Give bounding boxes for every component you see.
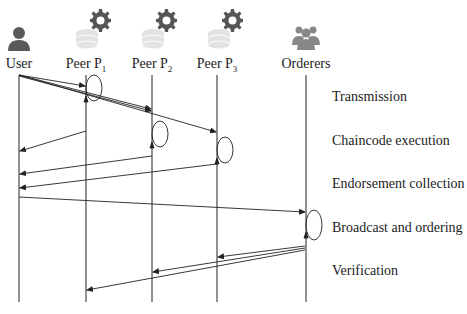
actor-label-peer-p3: Peer P3 xyxy=(197,56,238,74)
peer-p2-icon xyxy=(142,9,177,49)
peer-p3-icon xyxy=(208,9,243,49)
orderers-group-icon xyxy=(292,27,320,51)
phase-broadcast-ordering: Broadcast and ordering xyxy=(332,220,463,236)
messages xyxy=(19,75,322,290)
phase-chaincode-execution: Chaincode execution xyxy=(332,133,450,149)
user-icon xyxy=(8,27,30,51)
actor-label-peer-p1: Peer P1 xyxy=(66,56,107,74)
lifelines xyxy=(19,75,306,302)
phase-transmission: Transmission xyxy=(332,89,407,105)
actor-label-user: User xyxy=(6,56,32,72)
phase-verification: Verification xyxy=(332,263,398,279)
actor-label-orderers: Orderers xyxy=(282,56,331,72)
actor-label-peer-p2: Peer P2 xyxy=(132,56,173,74)
peer-p1-icon xyxy=(76,9,111,49)
sequence-diagram: User Peer P1 Peer P2 Peer P3 Orderers Tr… xyxy=(0,0,467,314)
phase-endorsement-collection: Endorsement collection xyxy=(332,176,465,192)
